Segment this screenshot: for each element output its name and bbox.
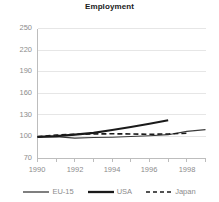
gridlines (38, 29, 206, 137)
ytick-label-70: 70 (6, 154, 32, 162)
legend-item-japan[interactable]: Japan (146, 188, 195, 196)
ytick-label-130: 130 (6, 111, 32, 119)
xtick-label-1996: 1996 (134, 166, 164, 174)
dashed-line-icon (146, 189, 172, 195)
legend-item-usa[interactable]: USA (88, 188, 132, 196)
chart-legend: EU-15 USA Japan (0, 186, 219, 198)
employment-line-chart: Employment (0, 0, 219, 202)
legend-label-usa: USA (117, 188, 132, 196)
ytick-label-190: 190 (6, 67, 32, 75)
ytick-label-160: 160 (6, 89, 32, 97)
thin-line-icon (23, 189, 49, 195)
ytick-label-220: 220 (6, 46, 32, 54)
xtick-label-1998: 1998 (172, 166, 202, 174)
legend-label-japan: Japan (175, 188, 195, 196)
ytick-label-250: 250 (6, 24, 32, 32)
thick-line-icon (88, 189, 114, 195)
ytick-label-100: 100 (6, 132, 32, 140)
xtick-label-1992: 1992 (60, 166, 90, 174)
legend-item-eu-15[interactable]: EU-15 (23, 188, 73, 196)
legend-label-eu-15: EU-15 (52, 188, 73, 196)
xtick-label-1990: 1990 (22, 166, 52, 174)
xtick-label-1994: 1994 (97, 166, 127, 174)
